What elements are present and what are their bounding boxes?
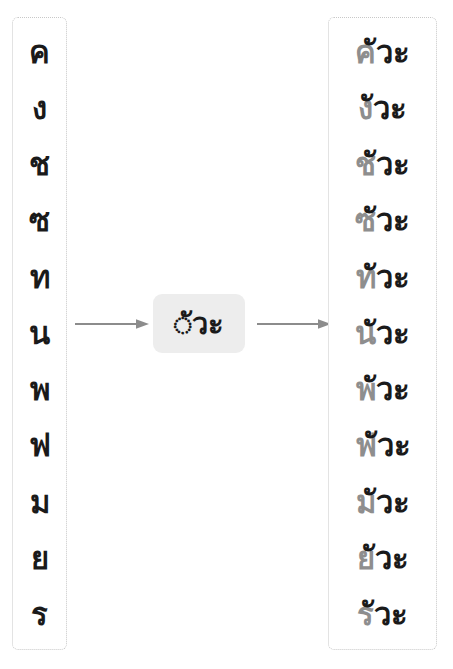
result-syllable-column: คัวะงัวะชัวะซัวะทัวะนัวะพัวะฟัวะมัวะยัวะ… <box>328 17 437 650</box>
consonant-item[interactable]: ง <box>13 82 66 134</box>
syllable-item[interactable]: พัวะ <box>329 364 436 416</box>
syllable-base-consonant: ฟ <box>355 430 377 461</box>
consonant-item[interactable]: ฟ <box>13 420 66 472</box>
consonant-item[interactable]: น <box>13 307 66 359</box>
consonant-item[interactable]: ม <box>13 476 66 528</box>
syllable-base-consonant: ร <box>357 599 374 630</box>
syllable-vowel-suffix: ัวะ <box>376 37 410 68</box>
syllable-item[interactable]: ชัวะ <box>329 139 436 191</box>
syllable-item[interactable]: ทัวะ <box>329 251 436 303</box>
syllable-base-consonant: ม <box>356 487 376 518</box>
syllable-item[interactable]: ยัวะ <box>329 533 436 585</box>
syllable-base-consonant: ง <box>358 93 373 124</box>
diagram-canvas: คงชซทนพฟมยร ◌ัวะ คัวะงัวะชัวะซัวะทัวะนัว… <box>0 0 453 669</box>
syllable-base-consonant: น <box>355 318 376 349</box>
consonant-item[interactable]: ช <box>13 139 66 191</box>
consonant-item[interactable]: ท <box>13 251 66 303</box>
vowel-pattern-chip[interactable]: ◌ัวะ <box>153 294 245 353</box>
source-consonant-column: คงชซทนพฟมยร <box>12 17 67 650</box>
syllable-vowel-suffix: ัวะ <box>374 599 408 630</box>
consonant-item[interactable]: ซ <box>13 195 66 247</box>
syllable-item[interactable]: คัวะ <box>329 26 436 78</box>
syllable-base-consonant: พ <box>356 374 376 405</box>
syllable-base-consonant: ค <box>355 37 376 68</box>
consonant-item[interactable]: ร <box>13 589 66 641</box>
consonant-item[interactable]: ย <box>13 533 66 585</box>
syllable-vowel-suffix: ัวะ <box>377 430 411 461</box>
syllable-item[interactable]: ฟัวะ <box>329 420 436 472</box>
syllable-item[interactable]: งัวะ <box>329 82 436 134</box>
syllable-vowel-suffix: ัวะ <box>376 374 410 405</box>
syllable-vowel-suffix: ัวะ <box>375 543 409 574</box>
syllable-item[interactable]: นัวะ <box>329 307 436 359</box>
arrow-right-icon-right <box>256 318 332 330</box>
syllable-base-consonant: ท <box>356 262 376 293</box>
syllable-vowel-suffix: ัวะ <box>376 318 410 349</box>
syllable-vowel-suffix: ัวะ <box>373 93 407 124</box>
syllable-vowel-suffix: ัวะ <box>376 262 410 293</box>
syllable-item[interactable]: มัวะ <box>329 476 436 528</box>
syllable-vowel-suffix: ัวะ <box>376 205 410 236</box>
syllable-base-consonant: ย <box>357 543 375 574</box>
syllable-item[interactable]: ซัวะ <box>329 195 436 247</box>
syllable-base-consonant: ซ <box>355 205 376 236</box>
syllable-item[interactable]: รัวะ <box>329 589 436 641</box>
vowel-pattern-label: ◌ัวะ <box>174 310 224 339</box>
arrow-right-icon-left <box>74 318 150 330</box>
syllable-vowel-suffix: ัวะ <box>376 149 410 180</box>
syllable-vowel-suffix: ัวะ <box>376 487 410 518</box>
syllable-base-consonant: ช <box>355 149 376 180</box>
consonant-item[interactable]: ค <box>13 26 66 78</box>
consonant-item[interactable]: พ <box>13 364 66 416</box>
